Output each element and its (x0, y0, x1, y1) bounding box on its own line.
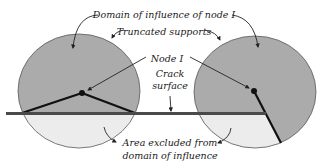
domain-of-influence-label: Domain of influence of node I (92, 9, 236, 20)
right-node-dot (251, 88, 257, 94)
crack-label-line2: surface (152, 80, 188, 91)
excluded-area-label-line1: Area excluded from (122, 137, 218, 148)
crack-label-line1: Crack (156, 68, 185, 79)
diagram-canvas: Domain of influence of node I Truncated … (0, 0, 324, 166)
crack-arrow (170, 96, 171, 111)
left-node-dot (79, 90, 85, 96)
excluded-area-label-line2: domain of influence (122, 150, 218, 161)
node-label: Node I (150, 53, 184, 64)
truncated-supports-label: Truncated supports (117, 26, 212, 37)
